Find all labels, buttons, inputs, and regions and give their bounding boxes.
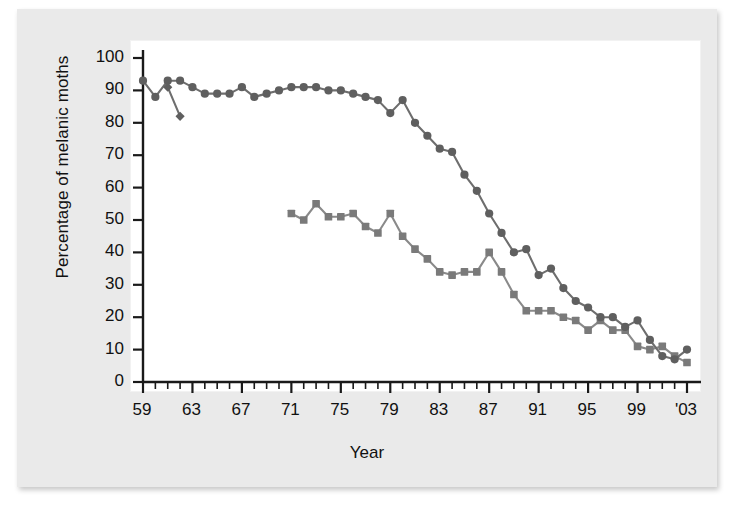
y-tick-label: 50 bbox=[84, 210, 124, 227]
series-circle-series-secondary bbox=[163, 83, 185, 121]
y-tick-label: 70 bbox=[84, 145, 124, 162]
x-tick-label: 95 bbox=[565, 401, 609, 418]
y-tick-label: 20 bbox=[84, 307, 124, 324]
series-square-series bbox=[288, 200, 691, 366]
x-tick-label: 59 bbox=[120, 401, 164, 418]
x-tick-label: 83 bbox=[417, 401, 461, 418]
x-axis-ticks bbox=[143, 382, 687, 393]
y-tick-label: 90 bbox=[84, 80, 124, 97]
y-axis-label-text: Percentage of melanic moths bbox=[53, 56, 73, 279]
x-tick-label: '03 bbox=[664, 401, 708, 418]
x-tick-label: 75 bbox=[318, 401, 362, 418]
y-tick-label: 40 bbox=[84, 242, 124, 259]
series-circle-series bbox=[139, 77, 691, 364]
x-tick-label: 87 bbox=[466, 401, 510, 418]
x-tick-label: 63 bbox=[169, 401, 213, 418]
x-tick-label: 91 bbox=[516, 401, 560, 418]
chart-svg bbox=[131, 41, 702, 393]
y-tick-label: 10 bbox=[84, 340, 124, 357]
figure-inner: Percentage of melanic moths 010203040506… bbox=[17, 9, 717, 487]
y-axis-label: Percentage of melanic moths bbox=[50, 37, 76, 297]
y-axis-ticks bbox=[133, 58, 143, 382]
axis-spines bbox=[143, 50, 701, 382]
y-tick-label: 30 bbox=[84, 275, 124, 292]
y-tick-label: 100 bbox=[84, 48, 124, 65]
y-tick-label: 0 bbox=[84, 372, 124, 389]
plot-area bbox=[130, 40, 701, 392]
x-tick-label: 79 bbox=[367, 401, 411, 418]
x-axis-label: Year bbox=[17, 443, 717, 463]
y-tick-label: 60 bbox=[84, 178, 124, 195]
x-tick-label: 99 bbox=[615, 401, 659, 418]
figure-card: Percentage of melanic moths 010203040506… bbox=[17, 9, 717, 487]
x-tick-label: 71 bbox=[268, 401, 312, 418]
x-tick-label: 67 bbox=[219, 401, 263, 418]
y-tick-label: 80 bbox=[84, 113, 124, 130]
